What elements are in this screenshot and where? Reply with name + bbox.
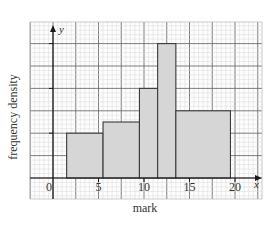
histogram-bar (176, 111, 231, 178)
x-axis-symbol: x (253, 178, 259, 190)
histogram-bar (67, 133, 103, 178)
y-axis-label-text: frequency density (6, 74, 21, 160)
x-tick-label: 20 (229, 180, 241, 194)
x-axis-label: mark (120, 201, 170, 216)
x-tick-label: 5 (96, 180, 102, 194)
x-tick-label: 10 (138, 180, 150, 194)
x-tick-label: 0 (46, 180, 52, 194)
histogram-bar (139, 88, 157, 178)
histogram-bar (158, 44, 176, 178)
histogram-chart: xy 05101520 (0, 0, 268, 228)
y-axis-label: frequency density (2, 62, 24, 172)
y-axis-symbol: y (58, 23, 64, 35)
histogram-bar (103, 122, 139, 178)
x-tick-label: 15 (184, 180, 196, 194)
